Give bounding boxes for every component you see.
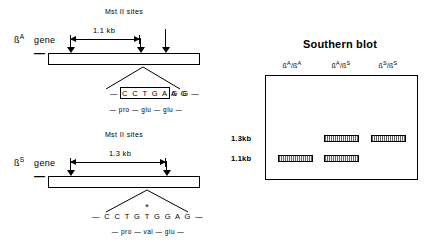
beta-a-sequence-prefix: — (110, 90, 119, 98)
beta-a-sequence-suffix: A G — (171, 90, 200, 98)
beta-s-sequence: — C C T G T G G A G — (92, 213, 204, 221)
size-marker-1-1kb: 1.1kb (231, 155, 251, 163)
lane-1-allele2-sup: S (347, 60, 351, 66)
lane-label-2: ßS/ßS (379, 61, 398, 69)
beta-a-superscript: A (20, 33, 25, 40)
beta-s-superscript: S (20, 156, 25, 163)
beta-s-gene-bar (48, 176, 200, 188)
beta-a-gene-label: ßA gene (14, 34, 55, 45)
lane-label-0: ßA/ßA (283, 61, 302, 69)
lane-label-1: ßA/ßS (332, 61, 351, 69)
band-lane0-1-1kb (278, 155, 313, 162)
beta-s-minus-mark: — (34, 171, 45, 182)
beta-a-gene-bar (48, 53, 200, 65)
mst-ii-sites-header-beta-a: Mst II sites (105, 8, 143, 15)
size-marker-1-3kb: 1.3kb (231, 135, 251, 143)
southern-blot-title: Southern blot (303, 39, 377, 50)
band-lane1-1-1kb (324, 155, 359, 162)
beta-a-amino-acids: — pro — glu — glu — (109, 107, 182, 114)
beta-s-mutation-asterisk: * (145, 203, 149, 212)
lane-2-allele2-sup: S (394, 60, 398, 66)
mst-ii-sites-header-beta-s: Mst II sites (105, 131, 143, 138)
beta-s-gene-word: gene (34, 158, 55, 168)
beta-s-gene-label: ßS gene (14, 157, 55, 168)
southern-blot-membrane (265, 75, 418, 180)
beta-s-span-label: 1.3 kb (109, 150, 131, 158)
band-lane1-1-3kb (324, 135, 359, 142)
beta-s-amino-acids: — pro — val — glu — (112, 229, 185, 236)
beta-s-distance-arrow (70, 158, 166, 167)
beta-a-distance-arrow (70, 35, 140, 44)
figure-sickle-cell-mstii-rflp: Mst II sites ßA gene — 1.1 kb (0, 0, 427, 245)
lane-0-allele2-sup: A (298, 60, 302, 66)
band-lane2-1-3kb (371, 135, 406, 142)
beta-a-minus-mark: — (34, 48, 45, 59)
beta-a-gene-word: gene (34, 35, 55, 45)
beta-a-span-label: 1.1 kb (93, 27, 115, 35)
